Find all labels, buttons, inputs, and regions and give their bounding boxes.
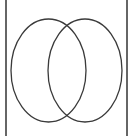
right-set-ellipse [48,19,122,122]
venn-diagram [0,0,130,136]
venn-canvas [0,0,130,136]
